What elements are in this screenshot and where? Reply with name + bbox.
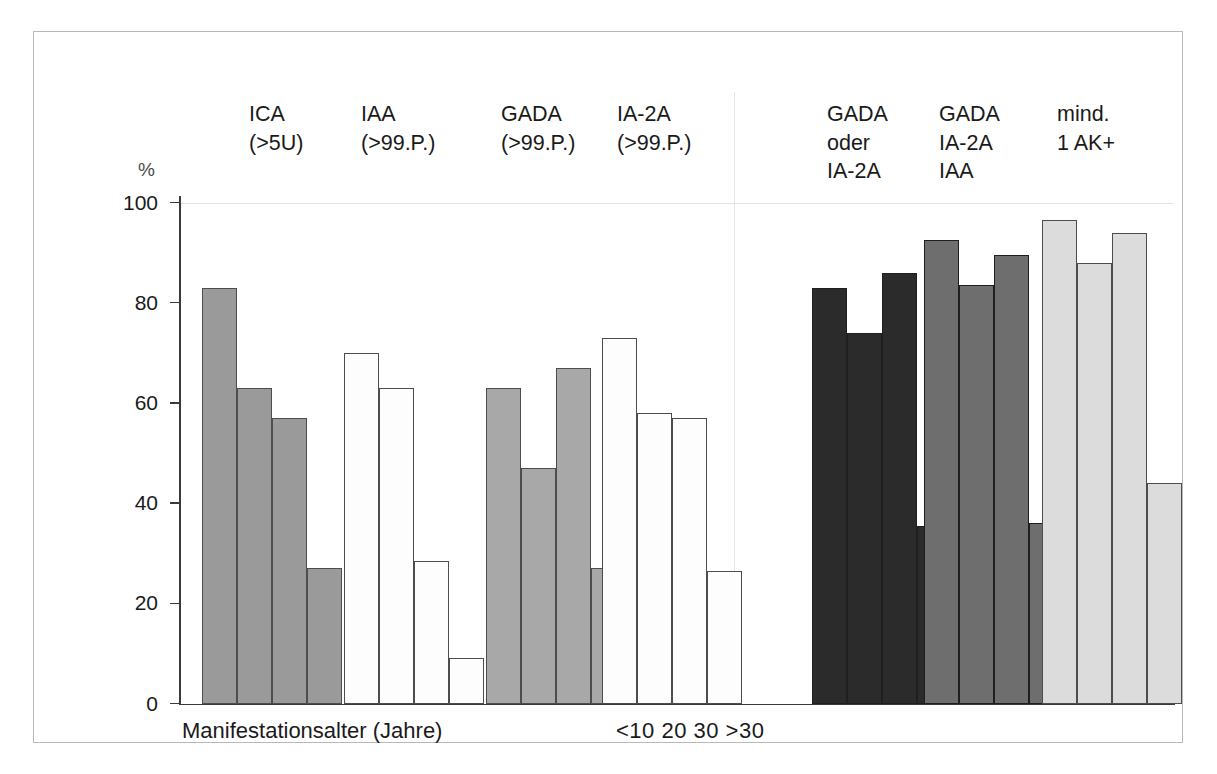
bar <box>1077 263 1112 704</box>
bar <box>449 658 484 703</box>
figure-border: % 020406080100 ICA (>5U)IAA (>99.P.)GADA… <box>33 31 1183 743</box>
bar <box>1042 220 1077 703</box>
bar <box>812 288 847 704</box>
bar <box>237 388 272 704</box>
bar <box>602 338 637 704</box>
bar <box>994 255 1029 703</box>
bar <box>1147 483 1182 703</box>
bar-group <box>344 203 484 704</box>
bar <box>959 285 994 703</box>
bar <box>521 468 556 703</box>
x-axis-caption-categories: <10 20 30 >30 <box>616 718 764 744</box>
bar <box>1112 233 1147 704</box>
bars-layer <box>34 32 1184 704</box>
figure-root: % 020406080100 ICA (>5U)IAA (>99.P.)GADA… <box>0 0 1217 774</box>
bar <box>379 388 414 704</box>
bar-group <box>1042 203 1182 704</box>
bar <box>202 288 237 704</box>
bar <box>344 353 379 704</box>
bar <box>556 368 591 704</box>
bar <box>272 418 307 704</box>
bar <box>672 418 707 704</box>
bar <box>707 571 742 704</box>
bar <box>637 413 672 704</box>
bar <box>414 561 449 704</box>
x-axis-caption-main: Manifestationsalter (Jahre) <box>182 718 442 744</box>
bar <box>307 568 342 703</box>
bar <box>924 240 959 703</box>
bar <box>882 273 917 704</box>
bar <box>847 333 882 704</box>
bar <box>486 388 521 704</box>
bar-group <box>602 203 742 704</box>
bar-group <box>202 203 342 704</box>
